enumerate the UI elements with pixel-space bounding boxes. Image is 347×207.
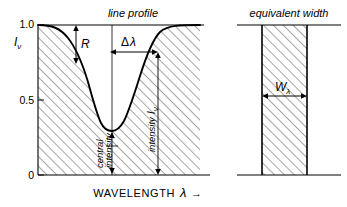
y-tick-label-2: 0.5 [19,94,34,106]
left-panel: line profile Iν 1.0 0.5 0 R Δλ central i… [14,7,210,200]
intensity-label-symbol-sub: ν [151,107,160,111]
right-panel-title: equivalent width [250,7,329,19]
y-axis-label: Iν [14,35,21,51]
equivalent-width-label-sub: λ [285,87,290,96]
figure-container: line profile Iν 1.0 0.5 0 R Δλ central i… [0,0,347,207]
x-axis-label-arrow: → [191,187,203,199]
equivalent-width-hatched-area [262,25,307,175]
x-axis-label-symbol: λ [179,185,187,200]
y-tick-label-3: 0 [28,169,34,181]
x-axis-label-text: WAVELENGTH [93,187,175,199]
intensity-label-text: intensity [146,116,157,152]
central-intensity-label-line2: intensity [103,132,114,168]
delta-lambda-arrowhead-left [110,49,116,54]
right-panel: equivalent width Wλ [237,7,341,175]
delta-lambda-label: Δλ [121,35,136,49]
line-profile-hatched-area [36,23,204,178]
figure-svg: line profile Iν 1.0 0.5 0 R Δλ central i… [0,0,347,207]
y-tick-label-1: 1.0 [19,18,34,30]
x-axis-label: WAVELENGTHλ→ [93,185,202,200]
residual-depth-arrowhead-top [73,25,79,31]
delta-lambda-delta: Δ [121,35,129,49]
delta-lambda-lambda: λ [129,35,136,49]
residual-depth-label: R [81,37,90,51]
y-axis-label-sub: ν [17,42,21,51]
left-panel-title: line profile [108,7,158,19]
